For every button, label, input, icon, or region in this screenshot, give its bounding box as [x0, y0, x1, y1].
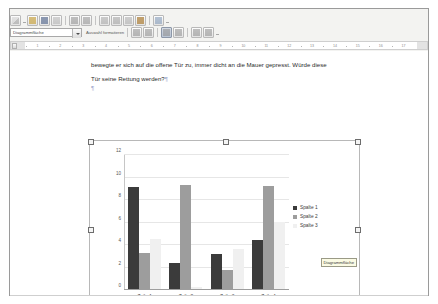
pilcrow-icon: ¶ — [91, 85, 94, 91]
chart-legend-label: Spalte 3 — [300, 223, 318, 228]
ruler-minor-tick — [323, 46, 324, 47]
horizontal-ruler[interactable]: 1234567891011121314151617 — [10, 41, 428, 50]
ruler-tick: 4 — [105, 43, 107, 50]
print-icon[interactable] — [81, 15, 92, 26]
chart-y-tick-label: 6 — [118, 215, 121, 220]
chart-plot-area[interactable]: 024681012 Zeile 1Zeile 2Zeile 3Zeile 4 — [124, 155, 289, 290]
ruler-minor-tick — [255, 46, 256, 47]
ruler-tick: 6 — [151, 43, 153, 50]
chart-bar[interactable] — [139, 253, 150, 289]
chart-tooltip: Diagrammfläche — [321, 258, 358, 267]
paragraph-line-2: Tür seine Rettung werden? — [91, 75, 165, 82]
chart-bar[interactable] — [211, 254, 222, 289]
chart-bar[interactable] — [150, 239, 161, 289]
resize-handle-top-left[interactable] — [88, 139, 94, 145]
new-document-dropdown-icon[interactable] — [22, 16, 26, 25]
toolbar-separator — [149, 16, 150, 25]
ruler-indent-marker[interactable] — [12, 43, 17, 49]
scale-text-button[interactable] — [203, 27, 214, 38]
edit-file-icon[interactable] — [69, 15, 80, 26]
resize-handle-top-right[interactable] — [355, 139, 361, 145]
chart-legend-swatch — [293, 215, 297, 219]
chart-y-tick-label: 4 — [118, 238, 121, 243]
ruler-tick: 8 — [197, 43, 199, 50]
resize-handle-top-center[interactable] — [223, 139, 229, 145]
toolbar-overflow-icon[interactable] — [215, 28, 219, 37]
ruler-minor-tick — [209, 46, 210, 47]
save-document-icon[interactable] — [39, 15, 50, 26]
ruler-tick: 17 — [402, 43, 406, 50]
format-selection-label[interactable]: Auswahl formatieren — [86, 28, 124, 37]
chart-tooltip-text: Diagrammfläche — [324, 260, 355, 265]
chart-type-button[interactable] — [131, 27, 142, 38]
email-document-icon[interactable] — [51, 15, 62, 26]
toolbar-separator — [127, 28, 128, 37]
chart-legend-label: Spalte 1 — [300, 205, 318, 210]
ruler-minor-tick — [163, 46, 164, 47]
chart-legend-item[interactable]: Spalte 2 — [293, 212, 355, 221]
chart-legend-swatch — [293, 224, 297, 228]
ruler-minor-tick — [72, 46, 73, 47]
chart-legend-label: Spalte 2 — [300, 214, 318, 219]
toolbar-separator — [157, 28, 158, 37]
undo-icon[interactable] — [153, 15, 164, 26]
standard-toolbar — [10, 14, 169, 26]
ruler-tick: 14 — [333, 43, 337, 50]
chart-bar[interactable] — [222, 270, 233, 289]
vertical-grid-button[interactable] — [173, 27, 184, 38]
chart-legend-item[interactable]: Spalte 1 — [293, 203, 355, 212]
ruler-minor-tick — [26, 46, 27, 47]
chart-category-group: Zeile 3 — [207, 155, 248, 289]
chart-category-group: Zeile 4 — [248, 155, 289, 289]
chart-bar-groups: Zeile 1Zeile 2Zeile 3Zeile 4 — [124, 155, 289, 289]
ruler-tick: 3 — [82, 43, 84, 50]
ruler-minor-tick — [186, 46, 187, 47]
chart-bar[interactable] — [128, 187, 139, 289]
ruler-tick: 10 — [241, 43, 245, 50]
toolbar-overflow-icon[interactable] — [165, 16, 169, 25]
chart-bar[interactable] — [274, 222, 285, 289]
ruler-tick: 5 — [128, 43, 130, 50]
document-body-text[interactable]: bewegte er sich auf die offene Tür zu, i… — [91, 58, 401, 86]
chart-legend-item[interactable]: Spalte 3 — [293, 221, 355, 230]
ruler-margin-right — [417, 42, 427, 49]
ruler-minor-tick — [95, 46, 96, 47]
chart-bar[interactable] — [252, 240, 263, 289]
resize-handle-middle-left[interactable] — [88, 227, 94, 233]
chevron-down-icon[interactable] — [72, 29, 81, 38]
paste-icon[interactable] — [135, 15, 146, 26]
new-document-icon[interactable] — [10, 15, 21, 26]
cut-icon[interactable] — [111, 15, 122, 26]
paragraph-line-1: bewegte er sich auf die offene Tür zu, i… — [91, 61, 327, 68]
resize-handle-middle-right[interactable] — [355, 227, 361, 233]
ruler-tick: 16 — [379, 43, 383, 50]
chart-formatting-toolbar: Diagrammfläche Auswahl formatieren — [10, 27, 219, 38]
chart-bar[interactable] — [233, 249, 244, 289]
ruler-tick: 11 — [264, 43, 268, 50]
ruler-minor-tick — [392, 46, 393, 47]
ruler-tick: 1 — [36, 43, 38, 50]
chart-bar[interactable] — [191, 287, 202, 289]
chart-bar[interactable] — [169, 263, 180, 289]
chart-element-select[interactable]: Diagrammfläche — [10, 28, 82, 37]
chart-y-tick-label: 2 — [118, 260, 121, 265]
copy-icon[interactable] — [123, 15, 134, 26]
ruler-minor-tick — [140, 46, 141, 47]
ruler-tick: 13 — [310, 43, 314, 50]
ruler-tick: 15 — [356, 43, 360, 50]
chart-object[interactable]: 024681012 Zeile 1Zeile 2Zeile 3Zeile 4 S… — [89, 140, 360, 295]
chart-y-tick-label: 10 — [116, 170, 121, 175]
data-table-button[interactable] — [143, 27, 154, 38]
toolbar-separator — [95, 16, 96, 25]
print-preview-icon[interactable] — [99, 15, 110, 26]
horizontal-grid-button[interactable] — [161, 27, 172, 38]
document-page[interactable]: bewegte er sich auf die offene Tür zu, i… — [10, 51, 428, 295]
ruler-tick: 12 — [287, 43, 291, 50]
legend-button[interactable] — [191, 27, 202, 38]
ruler-minor-tick — [369, 46, 370, 47]
open-document-icon[interactable] — [27, 15, 38, 26]
chart-bar[interactable] — [180, 185, 191, 289]
chart-bar[interactable] — [263, 186, 274, 289]
chart-legend[interactable]: Spalte 1Spalte 2Spalte 3 — [293, 203, 355, 230]
ruler-minor-tick — [278, 46, 279, 47]
